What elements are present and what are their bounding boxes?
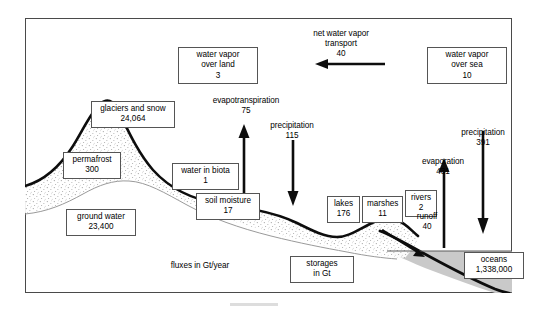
storage-box-water-vapor-over-sea: water vapor over sea 10	[427, 47, 507, 84]
precipitation-land-label: precipitation	[252, 121, 332, 131]
water-vapor-over-sea-value: 10	[432, 71, 502, 81]
ground-water-value: 23,400	[71, 222, 131, 232]
legend-fluxes-text: fluxes in Gt/year	[150, 261, 250, 271]
flux-label-precipitation-land: precipitation 115	[252, 121, 332, 141]
permafrost-label: permafrost	[68, 155, 116, 165]
water-vapor-over-land-line1: water vapor	[183, 50, 253, 60]
glaciers-value: 24,064	[96, 114, 170, 124]
storage-box-permafrost: permafrost 300	[63, 152, 121, 179]
net-vapor-transport-arrow	[315, 59, 385, 69]
evaporation-sea-value: 431	[404, 167, 482, 177]
lakes-value: 176	[332, 209, 355, 219]
oceans-label: oceans	[469, 255, 519, 265]
water-vapor-over-land-value: 3	[183, 71, 253, 81]
bottom-edge-artifact	[230, 303, 278, 306]
marshes-label: marshes	[367, 199, 398, 209]
storage-box-soil-moisture: soil moisture 17	[196, 193, 260, 220]
legend-storages-line1: storages	[295, 259, 349, 269]
precipitation-land-value: 115	[252, 131, 332, 141]
precipitation-land-arrow	[288, 140, 299, 206]
evapotranspiration-label: evapotranspiration	[198, 96, 294, 106]
flux-label-evaporation-sea: evaporation 431	[404, 157, 482, 177]
flux-label-net-vapor-transport: net water vapor transport 40	[296, 29, 386, 60]
flux-label-precipitation-sea: precipitation 391	[443, 128, 523, 148]
runoff-label: runoff	[407, 212, 447, 222]
flux-label-evapotranspiration: evapotranspiration 75	[198, 96, 294, 116]
water-vapor-over-land-line2: over land	[183, 60, 253, 70]
legend-fluxes-note: fluxes in Gt/year	[150, 261, 250, 271]
ground-water-label: ground water	[71, 212, 131, 222]
water-vapor-over-sea-line2: over sea	[432, 60, 502, 70]
soil-moisture-value: 17	[201, 206, 255, 216]
water-vapor-over-sea-line1: water vapor	[432, 50, 502, 60]
precipitation-sea-label: precipitation	[443, 128, 523, 138]
marshes-value: 11	[367, 209, 398, 219]
water-in-biota-value: 1	[177, 176, 234, 186]
storage-box-marshes: marshes 11	[362, 196, 403, 223]
glaciers-label: glaciers and snow	[96, 104, 170, 114]
storage-box-water-in-biota: water in biota 1	[172, 163, 239, 190]
evapotranspiration-value: 75	[198, 106, 294, 116]
soil-moisture-label: soil moisture	[201, 196, 255, 206]
legend-storages-line2: in Gt	[295, 269, 349, 279]
net-vapor-transport-line2: transport	[296, 39, 386, 49]
runoff-value: 40	[407, 222, 447, 232]
water-cycle-diagram: water vapor over land 3 water vapor over…	[0, 0, 537, 312]
storage-box-water-vapor-over-land: water vapor over land 3	[178, 47, 258, 84]
rivers-label: rivers	[410, 193, 432, 203]
permafrost-value: 300	[68, 165, 116, 175]
precipitation-sea-value: 391	[443, 138, 523, 148]
lakes-label: lakes	[332, 199, 355, 209]
oceans-value: 1,338,000	[469, 265, 519, 275]
storage-box-ground-water: ground water 23,400	[66, 209, 136, 236]
flux-label-runoff: runoff 40	[407, 212, 447, 232]
legend-storages-note: storages in Gt	[290, 256, 354, 283]
evaporation-sea-label: evaporation	[404, 157, 482, 167]
storage-box-lakes: lakes 176	[327, 196, 360, 223]
water-in-biota-label: water in biota	[177, 166, 234, 176]
storage-box-glaciers-and-snow: glaciers and snow 24,064	[91, 101, 175, 128]
net-vapor-transport-value: 40	[296, 49, 386, 59]
net-vapor-transport-line1: net water vapor	[296, 29, 386, 39]
storage-box-oceans: oceans 1,338,000	[464, 252, 524, 279]
